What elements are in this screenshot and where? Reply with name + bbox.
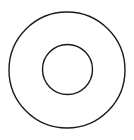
outer-circle bbox=[9, 12, 125, 128]
diagram-canvas bbox=[0, 0, 134, 140]
inner-circle bbox=[43, 45, 93, 95]
concentric-circles-figure bbox=[0, 0, 134, 140]
